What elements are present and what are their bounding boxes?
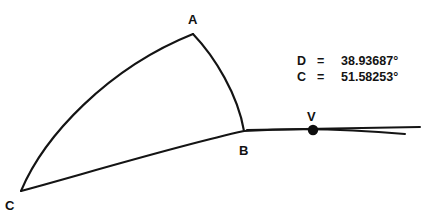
readout-equals-d: = [317,53,341,69]
point-label-a: A [188,12,198,27]
point-label-v: V [307,109,316,124]
point-label-b: B [239,143,248,158]
vertex-point-v [308,125,318,135]
readout-name-d: D [297,53,317,69]
readout-equals-c: = [317,69,341,85]
point-label-c: C [5,198,15,213]
angle-readout: D = 38.93687° C = 51.58253° [297,53,398,85]
readout-row-d: D = 38.93687° [297,53,398,69]
readout-value-d: 38.93687° [341,53,398,69]
arc-a-to-b [193,34,244,131]
readout-value-c: 51.58253° [341,69,398,85]
readout-row-c: C = 51.58253° [297,69,398,85]
readout-name-c: C [297,69,317,85]
geometry-figure: A B C V [0,0,430,220]
curve-c-to-b [21,131,244,191]
